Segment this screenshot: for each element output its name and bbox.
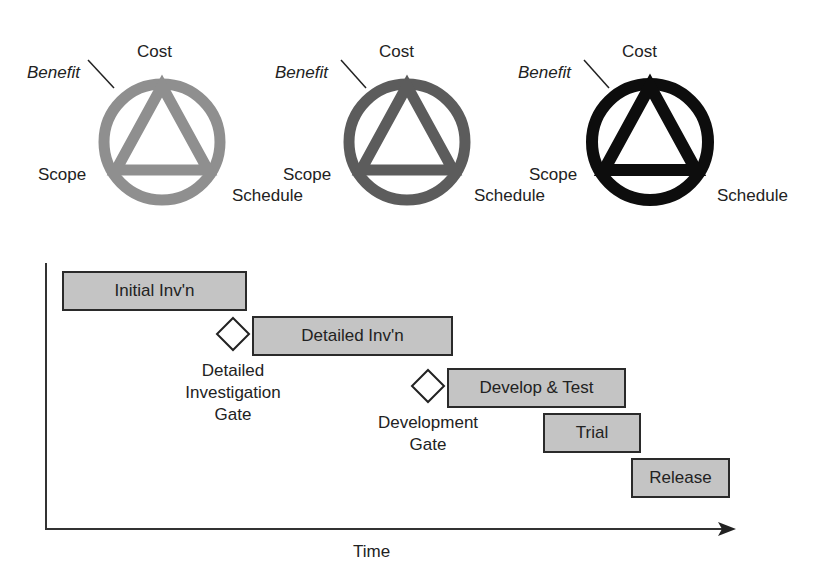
cost-label-1: Cost — [137, 43, 172, 60]
phase-label: Detailed Inv'n — [301, 326, 403, 346]
phase-label: Initial Inv'n — [115, 281, 195, 301]
schedule-label-3: Schedule — [717, 187, 788, 204]
scope-label-1: Scope — [38, 166, 86, 183]
phase-label: Trial — [576, 423, 608, 443]
cost-label-2: Cost — [379, 43, 414, 60]
gate-diamond-detailed-investigation — [217, 318, 249, 350]
scope-label-2: Scope — [283, 166, 331, 183]
phase-bar-trial: Trial — [543, 413, 641, 453]
gate-label-line: Gate — [173, 404, 293, 426]
benefit-label-2: Benefit — [275, 64, 328, 81]
time-axis-label: Time — [353, 543, 390, 560]
project-triangle-3 — [584, 60, 708, 200]
gate-label-development: Development Gate — [368, 412, 488, 456]
phase-label: Release — [649, 468, 711, 488]
gate-diamond-development — [412, 370, 444, 402]
gate-label-line: Development — [368, 412, 488, 434]
phase-bar-initial-investigation: Initial Inv'n — [62, 271, 247, 311]
gate-label-line: Detailed — [173, 360, 293, 382]
phase-label: Develop & Test — [479, 378, 593, 398]
cost-label-3: Cost — [622, 43, 657, 60]
gate-label-line: Gate — [368, 434, 488, 456]
project-triangle-1 — [88, 60, 220, 200]
project-triangle-2 — [341, 60, 465, 200]
phase-bar-develop-test: Develop & Test — [447, 368, 626, 408]
phase-bar-detailed-investigation: Detailed Inv'n — [252, 316, 453, 356]
schedule-label-2: Schedule — [474, 187, 545, 204]
scope-label-3: Scope — [529, 166, 577, 183]
gate-label-line: Investigation — [173, 382, 293, 404]
schedule-label-1: Schedule — [232, 187, 303, 204]
phase-bar-release: Release — [631, 458, 730, 498]
benefit-label-1: Benefit — [27, 64, 80, 81]
benefit-label-3: Benefit — [518, 64, 571, 81]
gate-label-detailed-investigation: Detailed Investigation Gate — [173, 360, 293, 426]
